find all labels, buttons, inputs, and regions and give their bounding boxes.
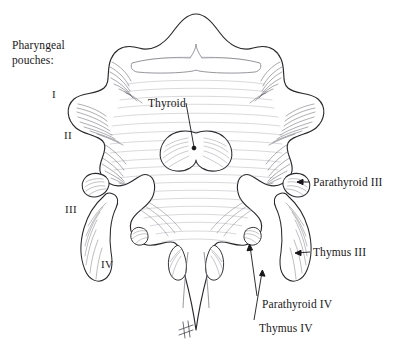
thymus-iii-right [274,193,311,281]
pouch-numeral-i: I [52,88,56,100]
pharyngeal-pouches-caption: Pharyngealpouches: [12,38,65,67]
pharyngeal-pouch-figure: Pharyngealpouches: I II III IV Thyroid P… [0,0,393,344]
pouch-numeral-iii: III [65,203,77,215]
pouch-numeral-ii: II [64,129,72,141]
thymus-iv-label: Thymus IV [259,322,313,336]
parathyroid-iv-left [131,227,148,245]
parathyroid-iii-right [283,173,310,197]
leader-thymus-iv [254,270,265,320]
caption-line-2: pouches: [12,54,54,66]
parathyroid-iv-right [244,227,261,245]
parathyroid-iii-left [82,173,109,197]
caption-line-1: Pharyngeal [12,39,65,51]
parathyroid-iii-label: Parathyroid III [313,176,383,190]
thymus-iii-label: Thymus III [313,246,366,260]
pouch-numeral-iv: IV [101,258,113,270]
leader-parathyroid-iv [247,244,257,296]
parathyroid-iv-label: Parathyroid IV [262,298,332,312]
thyroid-label: Thyroid [148,97,186,111]
